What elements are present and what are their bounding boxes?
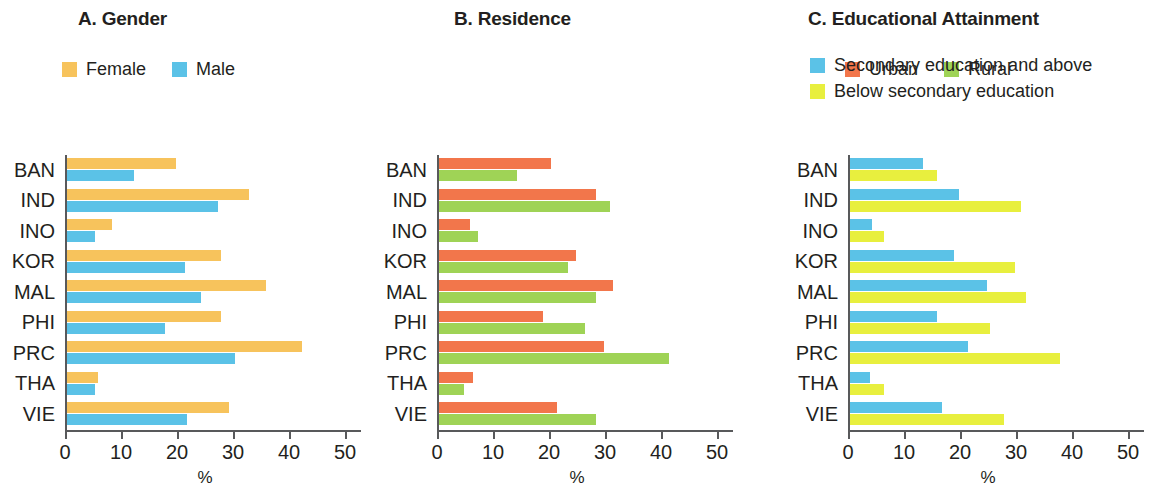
bar [67,280,266,291]
category-label: KOR [367,250,427,273]
bar [67,384,95,395]
bar [67,323,165,334]
x-axis-title: % [197,468,212,488]
bar [67,372,98,383]
legend-swatch-icon [172,62,187,77]
bar [850,231,884,242]
legend-item-below-secondary-education[interactable]: Below secondary education [810,82,1054,100]
x-axis-tick [848,432,850,439]
bar [67,158,176,169]
bar [850,372,870,383]
x-axis-tick [960,432,962,439]
bar [67,292,201,303]
x-axis-tick-label: 10 [110,441,132,464]
legend-label: Female [86,60,146,78]
bar [67,250,221,261]
category-label: VIE [367,402,427,425]
panel-b-plot: 01020304050%BANINDINOKORMALPHIPRCTHAVIE [437,155,717,430]
legend-item-secondary-education-and-above[interactable]: Secondary education and above [810,56,1092,74]
bar [439,311,543,322]
bar [439,280,613,291]
category-label: PHI [0,311,55,334]
bar [850,158,923,169]
bar [439,353,669,364]
legend-item-male[interactable]: Male [172,60,235,78]
legend-row: FemaleMale [62,56,261,82]
x-axis-tick-label: 30 [222,441,244,464]
x-axis-tick [1128,432,1130,439]
bar [439,231,478,242]
category-label: PRC [778,341,838,364]
panel-c-title: C. Educational Attainment [808,8,1039,30]
bar [439,189,596,200]
bar [439,201,610,212]
category-label: PRC [367,341,427,364]
category-label: VIE [778,402,838,425]
bar [67,341,302,352]
bar [439,384,464,395]
bar [850,189,959,200]
x-axis-tick [121,432,123,439]
panel-b-residence: B. Residence UrbanRural 01020304050%BANI… [390,0,780,497]
x-axis-tick [904,432,906,439]
bar [67,353,235,364]
bar [439,292,596,303]
legend-item-female[interactable]: Female [62,60,146,78]
bar [850,219,872,230]
bar [850,414,1004,425]
x-axis-tick [1072,432,1074,439]
x-axis-tick [289,432,291,439]
x-axis-tick-label: 30 [594,441,616,464]
x-axis-tick-label: 10 [893,441,915,464]
bar [850,341,968,352]
panel-a-plot: 01020304050%BANINDINOKORMALPHIPRCTHAVIE [65,155,345,430]
category-label: PHI [778,311,838,334]
bar [850,170,937,181]
bar [850,323,990,334]
category-label: IND [0,189,55,212]
x-axis-tick-label: 10 [482,441,504,464]
x-axis-tick [233,432,235,439]
bar [439,262,568,273]
bar [67,219,112,230]
x-axis-tick [717,432,719,439]
panel-a-legend: FemaleMale [62,56,261,82]
category-label: IND [367,189,427,212]
x-axis-line [65,430,361,432]
legend-label: Below secondary education [834,82,1054,100]
x-axis-tick [65,432,67,439]
x-axis-title: % [569,468,584,488]
bar [850,201,1021,212]
x-axis-tick-label: 20 [166,441,188,464]
bar [67,189,249,200]
category-label: KOR [0,250,55,273]
x-axis-tick-label: 20 [949,441,971,464]
bar [850,384,884,395]
bar [67,402,229,413]
category-label: BAN [0,158,55,181]
category-label: THA [778,372,838,395]
bar [439,402,557,413]
figure-three-panel-bar-charts: A. Gender FemaleMale 01020304050%BANINDI… [0,0,1166,497]
category-label: BAN [367,158,427,181]
legend-label: Secondary education and above [834,56,1092,74]
bar [67,414,187,425]
legend-swatch-icon [810,58,825,73]
bar [439,158,551,169]
x-axis-line [848,430,1144,432]
panel-c-legend: Secondary education and aboveBelow secon… [810,52,1118,104]
x-axis-tick-label: 0 [59,441,70,464]
x-axis-tick [661,432,663,439]
x-axis-tick [493,432,495,439]
bar [67,170,134,181]
legend-swatch-icon [62,62,77,77]
bar [439,372,473,383]
x-axis-tick-label: 50 [334,441,356,464]
panel-c-plot: 01020304050%BANINDINOKORMALPHIPRCTHAVIE [848,155,1128,430]
panel-a-title: A. Gender [78,8,167,30]
panel-b-title: B. Residence [454,8,571,30]
bar [67,231,95,242]
bar [850,280,987,291]
legend-row: Below secondary education [810,78,1118,104]
x-axis-tick-label: 0 [842,441,853,464]
